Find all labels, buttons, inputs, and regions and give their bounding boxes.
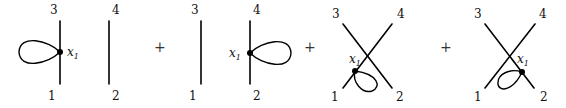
label-4: 4 [112, 3, 120, 17]
vertex-label: x1 [349, 52, 361, 68]
vertex-dot [352, 68, 358, 74]
vertex-label: x1 [517, 52, 529, 68]
vertex-dot [57, 49, 63, 55]
diagram-4: x1 3 4 1 2 [474, 7, 548, 104]
vertex-label: x1 [67, 45, 79, 61]
label-2: 2 [253, 89, 261, 103]
plus-operator-1: + [154, 39, 166, 55]
label-2: 2 [540, 90, 548, 104]
tadpole-loop [250, 42, 291, 65]
tadpole-loop [19, 41, 60, 64]
label-4: 4 [253, 3, 261, 17]
diagram-2: x1 3 4 1 2 [189, 3, 291, 103]
label-3: 3 [474, 7, 482, 21]
diagram-3: x1 3 4 1 2 [331, 7, 405, 104]
plus-operator-3: + [440, 39, 452, 55]
plus-operator-2: + [304, 39, 316, 55]
label-1: 1 [331, 90, 339, 104]
label-2: 2 [396, 90, 404, 104]
label-3: 3 [191, 3, 199, 17]
tadpole-loop [354, 71, 377, 91]
label-3: 3 [50, 3, 58, 17]
label-3: 3 [332, 7, 340, 21]
label-1: 1 [48, 89, 56, 103]
vertex-label: x1 [229, 46, 241, 62]
vertex-dot [519, 69, 525, 75]
label-4: 4 [397, 7, 405, 21]
feynman-diagram-sum: x1 3 4 1 2 + x1 3 4 1 2 + x1 3 4 1 2 + x… [0, 0, 566, 108]
vertex-dot [247, 50, 253, 56]
label-1: 1 [189, 89, 197, 103]
label-1: 1 [474, 90, 482, 104]
tadpole-loop [498, 71, 522, 89]
label-4: 4 [539, 7, 547, 21]
label-2: 2 [112, 89, 120, 103]
diagram-1: x1 3 4 1 2 [19, 3, 120, 103]
